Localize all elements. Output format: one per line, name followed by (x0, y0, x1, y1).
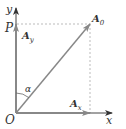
origin-label: O (5, 113, 15, 127)
point-p-label: P (4, 21, 14, 35)
x-axis-label: x (106, 114, 113, 127)
y-axis-label: y (5, 3, 13, 16)
component-x-label: Ax (69, 98, 82, 112)
angle-alpha-label: α (25, 84, 31, 94)
vector-diagram: y P Ay A0 α Ax O x (0, 0, 126, 129)
vector-a0-label: A0 (91, 13, 105, 27)
component-y-label: Ay (21, 30, 35, 44)
